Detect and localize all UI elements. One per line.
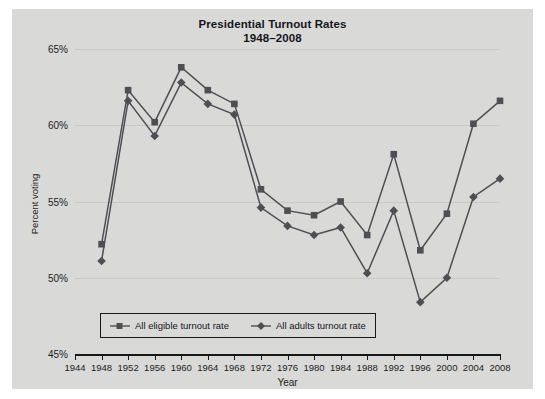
x-tick — [155, 354, 156, 360]
data-point-marker — [497, 98, 504, 105]
x-tick-label: 2004 — [463, 362, 484, 373]
x-tick — [394, 354, 395, 360]
y-tick-label: 45% — [48, 349, 68, 360]
data-point-marker — [363, 269, 372, 278]
square-marker-icon — [110, 321, 130, 331]
data-point-marker — [310, 231, 319, 240]
x-tick-label: 1968 — [224, 362, 245, 373]
x-tick-label: 1960 — [171, 362, 192, 373]
data-point-marker — [283, 222, 292, 231]
legend-item-eligible[interactable]: All eligible turnout rate — [110, 320, 229, 331]
x-tick — [261, 354, 262, 360]
x-tick — [208, 354, 209, 360]
y-axis-title: Percent voting — [29, 174, 40, 235]
x-tick — [128, 354, 129, 360]
chart-legend: All eligible turnout rate All adults tur… — [100, 313, 376, 338]
y-tick-label: 50% — [48, 272, 68, 283]
x-tick-label: 1952 — [118, 362, 139, 373]
x-tick — [447, 354, 448, 360]
x-tick-label: 1988 — [357, 362, 378, 373]
y-tick-label: 60% — [48, 120, 68, 131]
x-tick-label: 1964 — [197, 362, 218, 373]
data-point-marker — [258, 186, 265, 193]
data-point-marker — [231, 101, 238, 108]
series-plot — [75, 49, 500, 354]
data-point-marker — [444, 210, 451, 217]
diamond-marker-icon — [251, 321, 271, 331]
y-tick-label: 65% — [48, 44, 68, 55]
x-tick — [234, 354, 235, 360]
x-tick — [181, 354, 182, 360]
x-tick-label: 1980 — [303, 362, 324, 373]
data-point-marker — [311, 212, 318, 219]
data-point-marker — [389, 206, 398, 215]
x-tick — [500, 354, 501, 360]
x-tick-label: 2000 — [436, 362, 457, 373]
x-tick — [288, 354, 289, 360]
x-tick — [102, 354, 103, 360]
data-point-marker — [364, 232, 371, 239]
chart-figure: Presidential Turnout Rates 1948–2008 Per… — [12, 9, 533, 389]
series-line-eligible — [102, 67, 500, 250]
x-tick-label: 1944 — [64, 362, 85, 373]
x-tick — [341, 354, 342, 360]
plot-area: 65%60%55%50%45% 194419481952195619601964… — [75, 49, 500, 354]
legend-item-adults[interactable]: All adults turnout rate — [251, 320, 366, 331]
x-tick — [420, 354, 421, 360]
x-tick-label: 1984 — [330, 362, 351, 373]
x-tick-label: 1956 — [144, 362, 165, 373]
x-tick — [314, 354, 315, 360]
data-point-marker — [337, 198, 344, 205]
data-point-marker — [417, 247, 424, 254]
data-point-marker — [205, 87, 212, 94]
chart-title-block: Presidential Turnout Rates 1948–2008 — [12, 17, 533, 45]
x-tick-label: 1948 — [91, 362, 112, 373]
series-line-adults — [102, 83, 500, 303]
x-tick — [75, 354, 76, 360]
data-point-marker — [284, 207, 291, 214]
x-tick-label: 1996 — [410, 362, 431, 373]
x-tick — [367, 354, 368, 360]
y-tick-label: 55% — [48, 196, 68, 207]
x-tick — [473, 354, 474, 360]
data-point-marker — [151, 119, 158, 126]
data-point-marker — [178, 64, 185, 71]
legend-label-eligible: All eligible turnout rate — [135, 320, 229, 331]
chart-subtitle: 1948–2008 — [12, 31, 533, 45]
legend-label-adults: All adults turnout rate — [276, 320, 366, 331]
data-point-marker — [390, 151, 397, 158]
x-tick-label: 1972 — [250, 362, 271, 373]
data-point-marker — [336, 223, 345, 232]
data-point-marker — [496, 174, 505, 183]
data-point-marker — [469, 193, 478, 202]
x-tick-label: 2008 — [489, 362, 510, 373]
x-tick-label: 1976 — [277, 362, 298, 373]
data-point-marker — [97, 257, 106, 266]
x-tick-label: 1992 — [383, 362, 404, 373]
data-point-marker — [257, 203, 266, 212]
data-point-marker — [125, 87, 132, 94]
data-point-marker — [470, 120, 477, 127]
x-axis-title: Year — [75, 377, 500, 388]
page-title: Presidential Turnout Rates — [12, 17, 533, 31]
